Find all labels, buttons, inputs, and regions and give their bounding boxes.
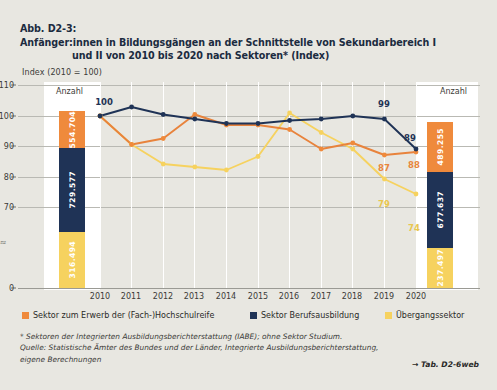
data-point [382, 177, 387, 182]
data-point [256, 121, 261, 126]
y-tick-100: 100 [0, 112, 14, 121]
data-point [161, 136, 166, 141]
point-label-navy-2010: 100 [95, 97, 113, 107]
data-point [224, 121, 229, 126]
footnote-star: * Sektoren der Integrierten Ausbildungsb… [20, 331, 420, 342]
legend-swatch-navy-icon [250, 312, 257, 319]
data-point [382, 117, 387, 122]
x-tick-2010: 2010 [90, 292, 110, 301]
y-axis-caption: Index (2010 = 100) [22, 68, 102, 77]
legend-label-uebergangssektor: Übergangssektor [396, 311, 464, 320]
line-hochschulreife [100, 115, 416, 156]
x-tick-2017: 2017 [311, 292, 331, 301]
data-point [382, 153, 387, 158]
chart-plot-area: 110 100 90 80 70 0 ≈ Anzahl 554.704 729.… [18, 82, 480, 290]
y-tick-0: 0 [9, 284, 14, 293]
y-tick-90: 90 [4, 142, 14, 151]
legend-label-berufsausbildung: Sektor Berufsausbildung [261, 311, 359, 320]
data-point [350, 114, 355, 119]
x-tick-2016: 2016 [279, 292, 299, 301]
legend-swatch-orange-icon [22, 312, 29, 319]
figure-title: Abb. D2-3: Anfänger:innen in Bildungsgän… [20, 22, 482, 63]
point-label-yellow-2019: 79 [378, 199, 390, 209]
point-label-orange-2020: 88 [408, 160, 420, 170]
footnote-source1: Quelle: Statistische Ämter des Bundes un… [20, 342, 420, 353]
y-tick-110: 110 [0, 81, 14, 90]
point-label-navy-2019: 99 [378, 99, 390, 109]
data-point [224, 168, 229, 173]
data-point [414, 147, 419, 152]
x-tick-2018: 2018 [342, 292, 362, 301]
data-point [129, 105, 134, 110]
series-lines [18, 82, 480, 290]
data-point [287, 127, 292, 132]
data-point [350, 141, 355, 146]
point-label-yellow-2020: 74 [408, 223, 420, 233]
figure-number: Abb. D2-3: [20, 23, 76, 34]
data-point [161, 112, 166, 117]
data-point [350, 147, 355, 152]
data-point [287, 111, 292, 116]
x-tick-2012: 2012 [153, 292, 173, 301]
y-tick-80: 80 [4, 173, 14, 182]
legend-item-hochschulreife: Sektor zum Erwerb der (Fach-)Hochschulre… [22, 311, 214, 320]
x-axis-labels: 2010 2011 2012 2013 2014 2015 2016 2017 … [18, 292, 480, 306]
x-tick-2011: 2011 [121, 292, 141, 301]
x-tick-2019: 2019 [374, 292, 394, 301]
data-point [192, 117, 197, 122]
point-label-navy-2020: 89 [404, 133, 416, 143]
points-berufsausbildung [98, 105, 419, 152]
legend-label-hochschulreife: Sektor zum Erwerb der (Fach-)Hochschulre… [33, 311, 214, 320]
x-tick-2015: 2015 [248, 292, 268, 301]
point-label-orange-2019: 87 [378, 163, 390, 173]
data-point [192, 165, 197, 170]
data-point [414, 192, 419, 197]
footnotes: * Sektoren der Integrierten Ausbildungsb… [20, 331, 420, 365]
data-point [256, 154, 261, 159]
data-point [192, 112, 197, 117]
footnote-source2: eigene Berechnungen [20, 354, 420, 365]
legend-item-berufsausbildung: Sektor Berufsausbildung [250, 311, 359, 320]
legend-item-uebergangssektor: Übergangssektor [385, 311, 464, 320]
data-point [287, 118, 292, 123]
figure-title-line1: Anfänger:innen in Bildungsgängen an der … [20, 37, 436, 48]
data-point [319, 130, 324, 135]
data-point [129, 142, 134, 147]
x-tick-2020: 2020 [406, 292, 426, 301]
legend-swatch-yellow-icon [385, 312, 392, 319]
x-tick-2013: 2013 [184, 292, 204, 301]
chart-legend: Sektor zum Erwerb der (Fach-)Hochschulre… [22, 311, 482, 323]
y-tick-70: 70 [4, 203, 14, 212]
data-point [98, 114, 103, 119]
data-point [319, 147, 324, 152]
line-berufsausbildung [100, 107, 416, 149]
table-reference-link[interactable]: → Tab. D2-6web [412, 360, 479, 369]
data-point [161, 162, 166, 167]
axis-break-icon: ≈ [0, 238, 6, 247]
figure-title-line2: und II von 2010 bis 2020 nach Sektoren* … [20, 49, 482, 63]
x-tick-2014: 2014 [216, 292, 236, 301]
data-point [319, 117, 324, 122]
